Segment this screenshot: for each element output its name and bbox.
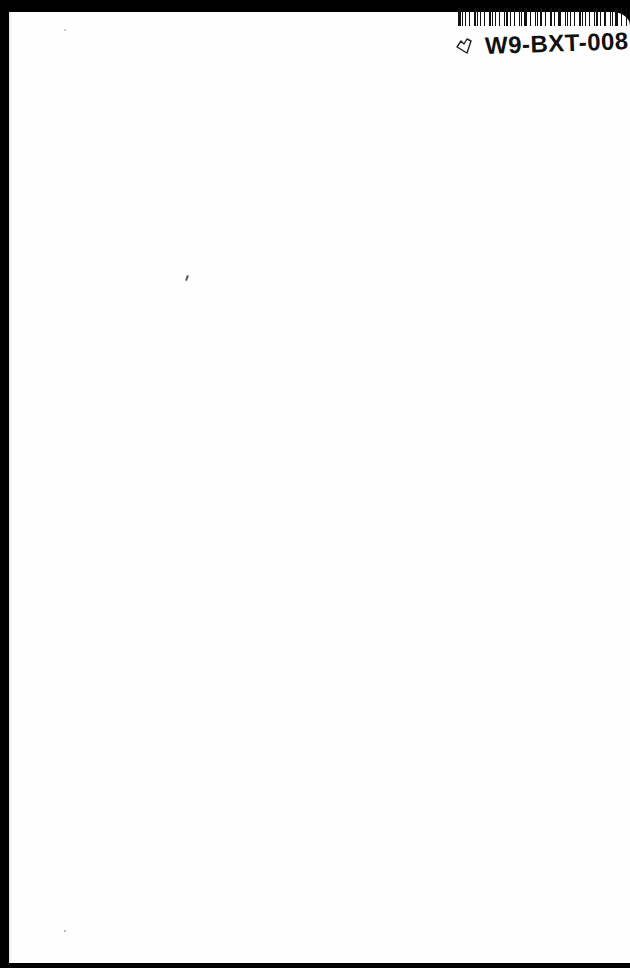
barcode-bar: [484, 8, 485, 26]
barcode-bar: [495, 8, 496, 26]
tag-heart-icon: [455, 37, 473, 55]
barcode-bar: [582, 8, 583, 26]
barcode-bar: [537, 8, 538, 26]
barcode-bar: [621, 8, 622, 26]
barcode-bar: [489, 8, 491, 26]
barcode-bar: [610, 8, 611, 26]
ink-speck: [185, 275, 189, 281]
barcode-bar: [567, 8, 568, 26]
barcode-bar: [540, 8, 542, 26]
barcode-bar: [626, 8, 627, 26]
barcode-bar: [492, 8, 493, 26]
dust-speck: [64, 29, 66, 31]
barcode-bar: [519, 8, 520, 26]
barcode-bar: [554, 8, 555, 26]
barcode-bar: [462, 8, 463, 26]
barcode-bar: [506, 8, 508, 26]
barcode-bar: [612, 8, 613, 26]
barcode-bar: [594, 8, 595, 26]
library-label: W9-BXT-008: [455, 32, 629, 60]
barcode-bar: [510, 8, 511, 26]
label-code: W9-BXT-008: [485, 27, 630, 60]
document-page: W9-BXT-008: [9, 12, 630, 963]
barcode-bar: [604, 8, 606, 26]
barcode-bar: [585, 8, 586, 26]
barcode-bar: [565, 8, 566, 26]
barcode-bar: [530, 8, 531, 26]
barcode-bar: [574, 8, 575, 26]
dust-speck: [64, 930, 66, 932]
barcode-bar: [524, 8, 527, 26]
barcode-bar: [474, 8, 476, 26]
barcode-bar: [596, 8, 598, 26]
barcode-bar: [550, 8, 551, 26]
barcode-bar: [477, 8, 478, 26]
barcode: [458, 8, 628, 26]
barcode-bar: [521, 8, 522, 26]
barcode-bar: [535, 8, 536, 26]
barcode-bar: [589, 8, 590, 26]
barcode-bar: [514, 8, 515, 26]
barcode-bar: [570, 8, 571, 26]
barcode-bar: [558, 8, 561, 26]
barcode-bar: [504, 8, 505, 26]
barcode-bar: [480, 8, 481, 26]
barcode-bar: [551, 8, 552, 26]
barcode-bar: [465, 8, 466, 26]
barcode-bar: [499, 8, 500, 26]
barcode-bar: [579, 8, 581, 26]
barcode-bar: [458, 8, 461, 26]
barcode-bar: [469, 8, 470, 26]
barcode-bar: [600, 8, 601, 26]
barcode-bar: [615, 8, 618, 26]
barcode-bar: [545, 8, 546, 26]
